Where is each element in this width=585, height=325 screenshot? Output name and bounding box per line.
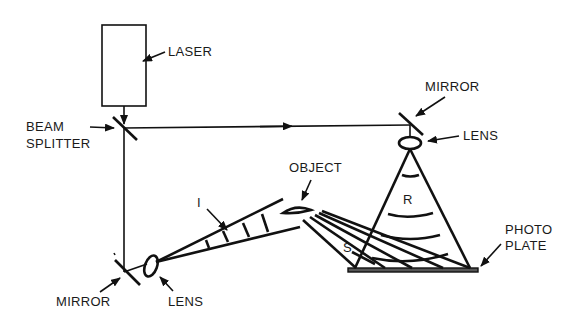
- photo-plate-label-line2: PLATE: [505, 238, 547, 253]
- photo-plate: [348, 268, 478, 272]
- bottom-mirror-pointer-arrow: [100, 278, 120, 292]
- photo-plate-pointer-arrow: [481, 244, 501, 266]
- reference-label: R: [403, 192, 413, 207]
- laser: [102, 25, 146, 106]
- holography-diagram: LASER BEAM SPLITTER MIRROR LENS: [0, 0, 585, 325]
- beam-splitter-pointer-arrow: [90, 127, 114, 128]
- beam-splitter-label-line2: SPLITTER: [26, 136, 91, 151]
- illumination-label: I: [197, 195, 201, 210]
- bottom-lens-pointer-arrow: [160, 277, 173, 291]
- object-pointer-arrow: [302, 180, 311, 200]
- photo-plate-label-line1: PHOTO: [505, 222, 553, 237]
- scattered-label: S: [343, 240, 352, 255]
- beam-splitter-label-line1: BEAM: [26, 119, 64, 134]
- top-lens-label: LENS: [463, 128, 498, 143]
- reference-beam-cone: [355, 149, 470, 268]
- illumination-beam-cone: [156, 199, 300, 262]
- object: [283, 208, 311, 214]
- object-beam-path: [124, 128, 147, 272]
- reference-beam-path: [124, 125, 410, 128]
- object-label: OBJECT: [289, 160, 342, 175]
- bottom-mirror-label: MIRROR: [56, 294, 111, 309]
- laser-label: LASER: [168, 44, 212, 59]
- bottom-lens-label: LENS: [168, 294, 203, 309]
- bottom-lens: [142, 254, 161, 279]
- top-mirror-label: MIRROR: [425, 79, 480, 94]
- top-lens-pointer-arrow: [428, 136, 459, 141]
- top-mirror-pointer-arrow: [416, 97, 445, 116]
- top-lens: [399, 137, 421, 149]
- illumination-pointer-arrow: [207, 209, 227, 230]
